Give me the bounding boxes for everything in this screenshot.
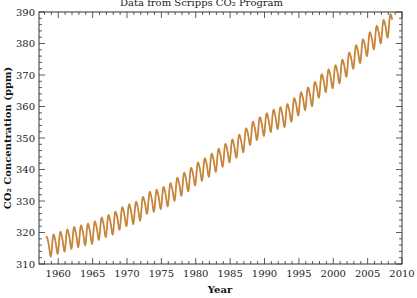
y-axis-title: CO₂ Concentration (ppm): [2, 67, 13, 209]
y-tick-label: 370: [16, 70, 35, 81]
x-tick-label: 1990: [252, 268, 277, 279]
plot-area: [46, 14, 392, 257]
y-tick-label: 330: [16, 196, 35, 207]
x-tick-label: 1975: [149, 268, 174, 279]
x-tick-label: 2000: [321, 268, 346, 279]
x-tick-label: 1965: [80, 268, 105, 279]
y-tick-label: 380: [16, 38, 35, 49]
co2-series-centerline: [46, 14, 392, 257]
y-tick-label: 350: [16, 133, 35, 144]
co2-series-line: [46, 14, 392, 257]
y-tick-label: 340: [16, 164, 35, 175]
x-tick-label: 1995: [286, 268, 311, 279]
y-tick-label: 320: [16, 227, 35, 238]
x-tick-label: 1960: [46, 268, 71, 279]
x-tick-label: 1980: [183, 268, 208, 279]
x-tick-label: 2005: [355, 268, 380, 279]
x-tick-label: 1970: [114, 268, 139, 279]
chart-subtitle: Data from Scripps CO₂ Program: [120, 0, 284, 8]
x-axis-title: Year: [207, 284, 233, 295]
y-tick-label: 390: [16, 7, 35, 18]
x-tick-label: 2010: [389, 268, 414, 279]
co2-chart: Data from Scripps CO₂ Program 1960196519…: [0, 0, 417, 298]
y-tick-label: 360: [16, 101, 35, 112]
x-tick-label: 1985: [217, 268, 242, 279]
y-tick-label: 310: [16, 259, 35, 270]
